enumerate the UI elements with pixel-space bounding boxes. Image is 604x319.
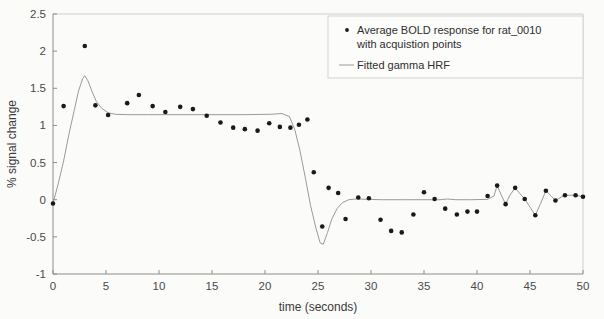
y-tick-label: 0 bbox=[40, 194, 46, 206]
data-point bbox=[367, 196, 372, 201]
data-point bbox=[533, 213, 538, 218]
data-point bbox=[443, 206, 448, 211]
x-tick-label: 30 bbox=[365, 280, 378, 292]
data-point bbox=[288, 125, 293, 130]
x-tick-label: 0 bbox=[50, 280, 56, 292]
x-tick-label: 40 bbox=[471, 280, 484, 292]
fitted-gamma-hrf-line bbox=[53, 76, 583, 245]
data-point bbox=[305, 117, 310, 122]
data-point bbox=[218, 120, 223, 125]
data-point bbox=[343, 217, 348, 222]
chart-legend: Average BOLD response for rat_0010 with … bbox=[328, 16, 583, 78]
y-axis-ticks: -1-0.500.511.522.5 bbox=[26, 8, 57, 280]
x-tick-label: 20 bbox=[259, 280, 272, 292]
data-point bbox=[231, 125, 236, 130]
data-point bbox=[51, 201, 56, 206]
y-tick-label: 2 bbox=[40, 45, 46, 57]
data-point bbox=[297, 122, 302, 127]
y-tick-label: -1 bbox=[36, 268, 46, 280]
data-point bbox=[522, 197, 527, 202]
data-point bbox=[311, 170, 316, 175]
data-point bbox=[411, 212, 416, 217]
y-tick-label: 1.5 bbox=[30, 82, 46, 94]
data-point bbox=[336, 191, 341, 196]
data-point bbox=[581, 194, 586, 199]
data-point bbox=[465, 209, 470, 214]
data-point bbox=[61, 104, 66, 109]
data-point bbox=[243, 127, 248, 132]
plot-canvas: 05101520253035404550 -1-0.500.511.522.5 … bbox=[0, 0, 604, 319]
data-point bbox=[399, 230, 404, 235]
x-tick-label: 35 bbox=[418, 280, 431, 292]
data-point bbox=[191, 107, 196, 112]
legend-entry-1-line1: Fitted gamma HRF bbox=[357, 59, 450, 71]
y-tick-label: 2.5 bbox=[30, 8, 46, 20]
x-axis-ticks: 05101520253035404550 bbox=[50, 270, 590, 292]
data-point bbox=[255, 128, 260, 133]
data-point bbox=[475, 209, 480, 214]
legend-entry-0-line2: with acquistion points bbox=[356, 38, 462, 50]
data-point bbox=[178, 105, 183, 110]
x-tick-label: 25 bbox=[312, 280, 325, 292]
data-point bbox=[563, 193, 568, 198]
bold-response-chart: 05101520253035404550 -1-0.500.511.522.5 … bbox=[0, 0, 604, 319]
y-axis-title: % signal change bbox=[5, 100, 19, 188]
data-point bbox=[495, 183, 500, 188]
data-point bbox=[553, 198, 558, 203]
legend-marker-dot-icon bbox=[345, 28, 349, 32]
data-point bbox=[150, 104, 155, 109]
data-point bbox=[544, 189, 549, 194]
x-axis-title: time (seconds) bbox=[279, 300, 358, 314]
data-point bbox=[326, 186, 331, 191]
data-point bbox=[267, 121, 272, 126]
data-point bbox=[320, 224, 325, 229]
data-point bbox=[125, 101, 130, 106]
y-tick-label: -0.5 bbox=[26, 231, 46, 243]
data-point bbox=[278, 125, 283, 130]
data-point bbox=[204, 113, 209, 118]
x-tick-label: 45 bbox=[524, 280, 537, 292]
data-point bbox=[485, 194, 490, 199]
fitted-curve-path bbox=[53, 76, 583, 245]
data-point bbox=[163, 110, 168, 115]
x-tick-label: 10 bbox=[153, 280, 166, 292]
x-tick-label: 15 bbox=[206, 280, 219, 292]
data-point bbox=[513, 186, 518, 191]
data-point bbox=[422, 190, 427, 195]
data-point bbox=[389, 229, 394, 234]
data-point bbox=[573, 193, 578, 198]
data-point bbox=[503, 202, 508, 207]
data-point bbox=[432, 197, 437, 202]
data-point bbox=[137, 93, 142, 98]
x-tick-label: 50 bbox=[577, 280, 590, 292]
x-tick-label: 5 bbox=[103, 280, 109, 292]
data-point bbox=[93, 103, 98, 108]
y-tick-label: 1 bbox=[40, 119, 46, 131]
data-point bbox=[356, 195, 361, 200]
data-point bbox=[378, 217, 383, 222]
data-point bbox=[106, 113, 111, 118]
data-point bbox=[83, 44, 88, 49]
data-point bbox=[455, 212, 460, 217]
y-tick-label: 0.5 bbox=[30, 157, 46, 169]
legend-entry-0-line1: Average BOLD response for rat_0010 bbox=[357, 24, 541, 36]
